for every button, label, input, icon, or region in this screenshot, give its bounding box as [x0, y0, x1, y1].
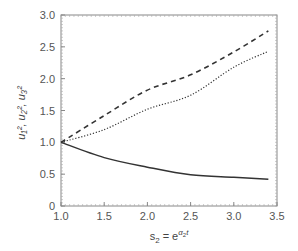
y-tick-label: 2.5	[40, 41, 55, 53]
series-dotted-line	[61, 51, 268, 142]
x-tick-label: 2.0	[140, 210, 155, 222]
series-dashed-line	[61, 31, 268, 142]
y-tick-label: 0.5	[40, 168, 55, 180]
x-tick-label: 1.0	[53, 210, 68, 222]
data-series	[61, 31, 268, 179]
y-tick-label: 1.5	[40, 105, 55, 117]
y-tick-label: 1.0	[40, 136, 55, 148]
line-chart: 00.51.01.52.02.53.0 1.01.52.02.53.03.5 u…	[0, 0, 298, 251]
x-axis-label: s2 = eα2t	[150, 228, 190, 245]
y-tick-label: 2.0	[40, 73, 55, 85]
x-tick-label: 3.0	[226, 210, 241, 222]
y-tick-label: 3.0	[40, 9, 55, 21]
x-tick-label: 1.5	[97, 210, 112, 222]
y-axis-label: u₁², u₂², u₃²	[15, 86, 27, 140]
series-solid-line	[61, 142, 268, 179]
x-tick-label: 3.5	[269, 210, 284, 222]
x-tick-label: 2.5	[183, 210, 198, 222]
